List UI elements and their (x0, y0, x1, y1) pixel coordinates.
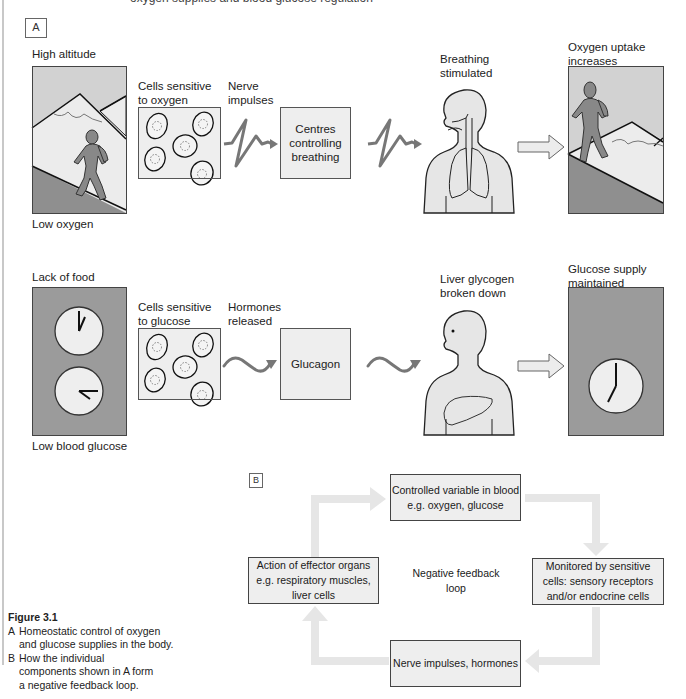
figure-caption: Figure 3.1 A Homeostatic control of oxyg… (8, 611, 174, 692)
figure-title: Figure 3.1 (8, 611, 174, 625)
caption-key: A (8, 625, 19, 652)
label-line: Nerve impulses, hormones (393, 656, 518, 671)
loop-box-nerve-impulses-hormones: Nerve impulses, hormones (390, 640, 521, 687)
caption-item-b: B How the individual components shown in… (8, 652, 174, 693)
label-line: cells: sensory receptors (543, 574, 653, 589)
caption-line: Homeostatic control of oxygen (19, 625, 174, 639)
label-line: liver cells (256, 588, 370, 603)
label-line: Negative feedback (400, 566, 512, 581)
caption-line: a negative feedback loop. (19, 679, 153, 693)
caption-line: How the individual (19, 652, 153, 666)
loop-box-controlled-variable: Controlled variable in blood e.g. oxygen… (390, 474, 521, 521)
caption-line: components shown in A form (19, 665, 153, 679)
caption-item-a: A Homeostatic control of oxygen and gluc… (8, 625, 174, 652)
label-line: Controlled variable in blood (392, 483, 519, 498)
label-line: Action of effector organs (256, 558, 370, 573)
label-line: Monitored by sensitive (543, 559, 653, 574)
caption-line: and glucose supplies in the body. (19, 638, 174, 652)
label-line: and/or endocrine cells (543, 589, 653, 604)
loop-box-monitored-by-sensors: Monitored by sensitive cells: sensory re… (532, 558, 664, 605)
label-line: loop (400, 581, 512, 596)
loop-center-label: Negative feedback loop (400, 566, 512, 596)
loop-box-effector-action: Action of effector organs e.g. respirato… (248, 557, 379, 604)
label-line: e.g. respiratory muscles, (256, 573, 370, 588)
label-line: e.g. oxygen, glucose (392, 498, 519, 513)
caption-key: B (8, 652, 19, 693)
